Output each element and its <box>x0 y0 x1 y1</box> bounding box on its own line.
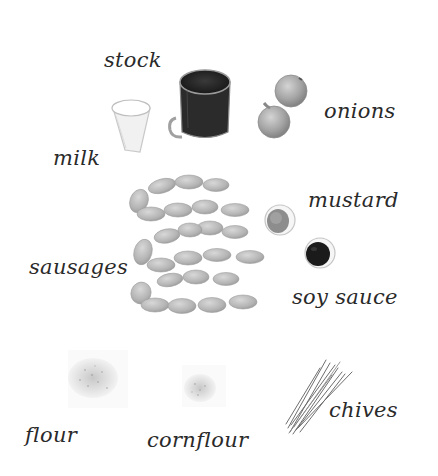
chives-icon <box>286 360 352 434</box>
label-chives: chives <box>329 400 398 421</box>
mustard-dish-icon <box>265 205 295 235</box>
label-milk: milk <box>53 148 100 169</box>
sausages-icon <box>126 175 264 314</box>
milk-glass-icon <box>112 100 150 152</box>
label-onions: onions <box>324 101 396 122</box>
cornflour-pile-icon <box>182 365 226 407</box>
soy-sauce-dish-icon <box>305 238 335 268</box>
label-sausages: sausages <box>29 257 128 278</box>
label-flour: flour <box>25 425 77 446</box>
flour-pile-icon <box>68 350 128 408</box>
label-mustard: mustard <box>308 190 399 211</box>
label-cornflour: cornflour <box>147 430 248 451</box>
ingredients-illustration: stock milk onions mustard sausages soy s… <box>0 0 438 476</box>
label-stock: stock <box>104 50 162 71</box>
stock-jug-icon <box>170 70 230 138</box>
label-soy-sauce: soy sauce <box>292 287 398 308</box>
onions-icon <box>258 75 307 138</box>
